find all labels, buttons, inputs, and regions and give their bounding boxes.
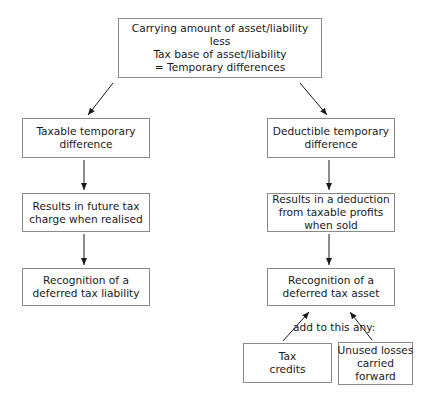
top-line-3: Tax base of asset/liability — [153, 48, 286, 61]
add-to-this-label: add to this any: — [293, 321, 375, 333]
box-line: when sold — [304, 219, 358, 232]
box-line: deferred tax asset — [283, 287, 380, 300]
deferred-tax-liability-box: Recognition of a deferred tax liability — [22, 268, 150, 306]
box-line: difference — [304, 138, 357, 151]
top-line-1: Carrying amount of asset/liability — [132, 22, 308, 35]
box-line: Recognition of a — [43, 274, 129, 287]
arrow-top-to-taxable — [88, 83, 113, 115]
box-line: credits — [270, 363, 306, 376]
box-line: Taxable temporary — [36, 125, 135, 138]
box-line: Unused losses — [338, 344, 414, 357]
box-line: Deductible temporary — [273, 125, 389, 138]
unused-losses-box: Unused losses carried forward — [338, 342, 413, 385]
box-line: Recognition of a — [288, 274, 374, 287]
box-line: charge when realised — [29, 213, 143, 226]
box-line: deferred tax liability — [32, 287, 139, 300]
box-line: Tax — [279, 350, 296, 363]
box-line: from taxable profits — [279, 206, 384, 219]
taxable-temporary-difference-box: Taxable temporary difference — [22, 118, 150, 158]
box-line: forward — [355, 370, 396, 383]
deduction-from-profits-box: Results in a deduction from taxable prof… — [267, 193, 395, 232]
arrow-top-to-deductible — [300, 83, 327, 115]
deferred-tax-asset-box: Recognition of a deferred tax asset — [267, 268, 395, 306]
top-line-2: less — [210, 35, 231, 48]
box-line: difference — [59, 138, 112, 151]
box-line: carried — [357, 357, 394, 370]
future-tax-charge-box: Results in future tax charge when realis… — [22, 193, 150, 232]
tax-credits-box: Tax credits — [243, 343, 332, 383]
box-line: Results in a deduction — [272, 193, 389, 206]
temporary-differences-box: Carrying amount of asset/liability less … — [118, 18, 322, 78]
deductible-temporary-difference-box: Deductible temporary difference — [267, 118, 395, 158]
box-line: Results in future tax — [33, 200, 140, 213]
top-line-4: = Temporary differences — [155, 61, 286, 74]
